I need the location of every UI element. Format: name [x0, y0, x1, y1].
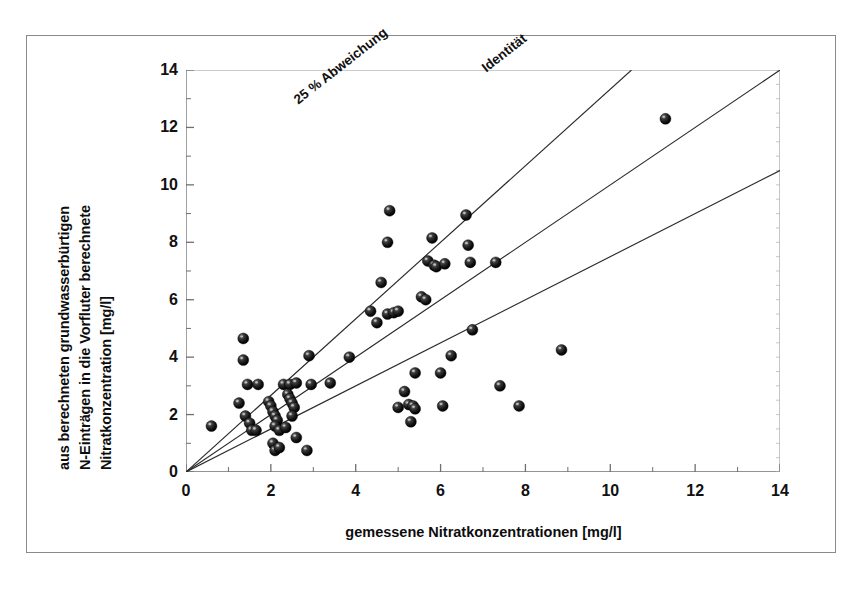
data-point-highlight — [272, 413, 275, 415]
data-point-highlight — [304, 447, 307, 449]
data-point — [439, 258, 450, 269]
data-point-highlight — [463, 212, 466, 214]
scatter-plot-svg — [186, 70, 780, 472]
data-point-highlight — [247, 420, 250, 422]
y-tick-label: 14 — [144, 61, 178, 79]
data-point — [446, 350, 457, 361]
data-point-highlight — [374, 320, 377, 322]
data-point-highlight — [662, 116, 665, 118]
x-tick-label: 0 — [166, 482, 206, 500]
data-point-highlight — [448, 353, 451, 355]
data-point-highlight — [240, 335, 243, 337]
data-point — [234, 398, 245, 409]
data-point-highlight — [276, 427, 279, 429]
data-point-highlight — [429, 235, 432, 237]
data-point — [437, 400, 448, 411]
data-point — [399, 386, 410, 397]
y-tick-label: 2 — [144, 406, 178, 424]
data-point-highlight — [437, 370, 440, 372]
data-point — [435, 367, 446, 378]
data-point-highlight — [289, 400, 292, 402]
data-point — [556, 344, 567, 355]
x-tick-label: 12 — [675, 482, 715, 500]
y-axis-title-line-3: Nitratkonzentration [mg/l] — [98, 296, 114, 470]
data-point-highlight — [208, 423, 211, 425]
data-point — [405, 416, 416, 427]
data-point-highlight — [276, 445, 279, 447]
data-point — [660, 113, 671, 124]
data-point-highlight — [440, 403, 443, 405]
data-point-highlight — [497, 383, 500, 385]
data-point-highlight — [412, 370, 415, 372]
data-point-highlight — [395, 308, 398, 310]
data-point-highlight — [283, 424, 286, 426]
data-point — [291, 377, 302, 388]
data-point-highlight — [467, 259, 470, 261]
x-tick-label: 6 — [421, 482, 461, 500]
data-point-highlight — [395, 404, 398, 406]
data-point-highlight — [516, 403, 519, 405]
data-point-highlight — [270, 440, 273, 442]
x-axis-tick-labels: 02468101214 — [186, 482, 786, 508]
data-point-highlight — [384, 239, 387, 241]
data-point — [287, 411, 298, 422]
y-axis-tick-labels: 02468101214 — [140, 70, 178, 472]
data-point — [384, 205, 395, 216]
data-point — [461, 210, 472, 221]
data-point-highlight — [401, 389, 404, 391]
figure-root: aus berechneten grundwasserbürtigen N-Ei… — [0, 0, 863, 589]
data-point — [238, 355, 249, 366]
data-point — [376, 277, 387, 288]
data-point-highlight — [408, 419, 411, 421]
data-points — [206, 113, 671, 456]
data-point — [344, 352, 355, 363]
data-point-highlight — [291, 404, 294, 406]
data-point-highlight — [293, 380, 296, 382]
x-tick-label: 8 — [505, 482, 545, 500]
data-point — [325, 377, 336, 388]
data-point-highlight — [423, 297, 426, 299]
data-point — [393, 306, 404, 317]
data-point-highlight — [289, 413, 292, 415]
y-tick-label: 10 — [144, 176, 178, 194]
data-point — [304, 350, 315, 361]
data-point-highlight — [285, 391, 288, 393]
data-point-highlight — [253, 427, 256, 429]
data-point-highlight — [384, 311, 387, 313]
y-axis-title-line-2: N-Einträgen in die Vorfluter berechnete — [77, 205, 93, 470]
data-point — [242, 379, 253, 390]
data-point — [253, 379, 264, 390]
data-point-highlight — [266, 399, 269, 401]
y-tick-label: 0 — [144, 463, 178, 481]
data-point — [420, 294, 431, 305]
data-point-highlight — [270, 409, 273, 411]
data-point-highlight — [306, 353, 309, 355]
data-point — [410, 367, 421, 378]
data-point — [206, 421, 217, 432]
data-point — [465, 257, 476, 268]
y-tick-label: 12 — [144, 118, 178, 136]
data-point — [238, 333, 249, 344]
data-point — [280, 422, 291, 433]
data-point-highlight — [412, 406, 415, 408]
data-point — [494, 380, 505, 391]
y-tick-label: 6 — [144, 291, 178, 309]
data-point — [371, 317, 382, 328]
data-point-highlight — [244, 381, 247, 383]
x-tick-label: 4 — [336, 482, 376, 500]
data-point — [467, 324, 478, 335]
data-point — [291, 432, 302, 443]
data-point-highlight — [558, 347, 561, 349]
x-tick-label: 10 — [590, 482, 630, 500]
x-axis-title: gemessene Nitratkonzentrationen [mg/l] — [186, 524, 781, 540]
data-point-highlight — [493, 259, 496, 261]
data-point-highlight — [272, 423, 275, 425]
data-point-highlight — [327, 380, 330, 382]
plot-area — [186, 70, 780, 472]
y-axis-title-line-1: aus berechneten grundwasserbürtigen — [56, 206, 72, 470]
data-point-highlight — [242, 413, 245, 415]
data-point-highlight — [281, 381, 284, 383]
data-point-highlight — [346, 354, 349, 356]
data-point — [382, 237, 393, 248]
data-point-highlight — [287, 396, 290, 398]
